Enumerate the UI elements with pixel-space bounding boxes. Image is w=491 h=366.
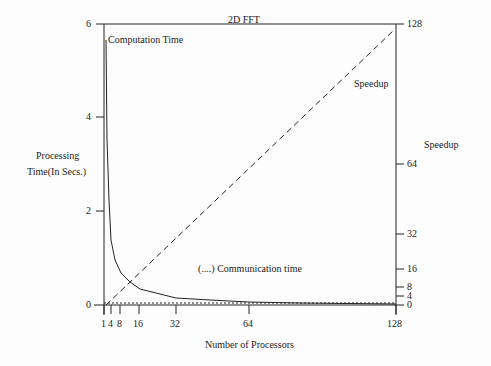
y-tick: 6 [86,19,91,29]
communication-annotation: (....) Communication time [198,263,302,275]
x-tick: 32 [170,319,180,329]
speedup-inline-annotation: Speedup [354,78,388,90]
y2-tick: 0 [407,300,412,310]
x-tick: 8 [117,319,122,329]
y2-tick: 32 [407,229,417,239]
y2-tick: 128 [407,19,422,29]
computation-annotation: Computation Time [108,34,183,46]
y-axis-label-line1: Processing [36,150,79,162]
x-tick: 4 [108,319,113,329]
x-axis-label: Number of Processors [205,339,294,351]
chart-title: 2D FFT [228,14,260,26]
y-tick: 4 [86,112,91,122]
y2-tick: 64 [407,159,417,169]
y2-axis-label: Speedup [424,139,458,151]
y-tick: 0 [86,300,91,310]
chart-canvas [0,0,491,366]
x-tick: 128 [387,319,402,329]
y-tick: 2 [86,206,91,216]
x-tick: 64 [243,319,253,329]
y2-tick: 16 [407,264,417,274]
y-axis-label-line2: Time(In Secs.) [27,166,86,178]
x-tick: 1 [101,319,106,329]
x-tick: 16 [133,319,143,329]
